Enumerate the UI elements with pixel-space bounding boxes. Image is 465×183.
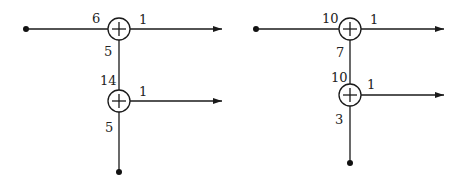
edge-label-input: 6 bbox=[92, 11, 100, 26]
sum-node-bottom bbox=[339, 84, 361, 106]
edge-label-down-bottom: 3 bbox=[335, 112, 343, 127]
edge-label-down-bottom: 5 bbox=[105, 120, 113, 135]
sum-node-top bbox=[339, 18, 361, 40]
edge-label-in-bottom: 14 bbox=[100, 73, 117, 88]
sink-dot bbox=[347, 160, 353, 166]
right-network: 10 1 7 10 1 3 bbox=[253, 11, 444, 166]
edge-label-in-bottom: 10 bbox=[331, 70, 348, 85]
edge-label-output-bottom: 1 bbox=[367, 77, 375, 92]
sink-dot bbox=[116, 169, 122, 175]
left-network: 6 1 5 14 1 5 bbox=[23, 11, 222, 175]
edge-label-input: 10 bbox=[322, 11, 339, 26]
flow-diagram-canvas: 6 1 5 14 1 5 10 1 7 10 1 3 bbox=[0, 0, 465, 183]
edge-label-output-top: 1 bbox=[370, 12, 378, 27]
edge-label-output-bottom: 1 bbox=[139, 84, 147, 99]
sum-node-top bbox=[108, 18, 130, 40]
edge-label-down-top: 5 bbox=[104, 44, 112, 59]
edge-label-output-top: 1 bbox=[139, 12, 147, 27]
sum-node-bottom bbox=[108, 90, 130, 112]
edge-label-down-top: 7 bbox=[336, 45, 344, 60]
